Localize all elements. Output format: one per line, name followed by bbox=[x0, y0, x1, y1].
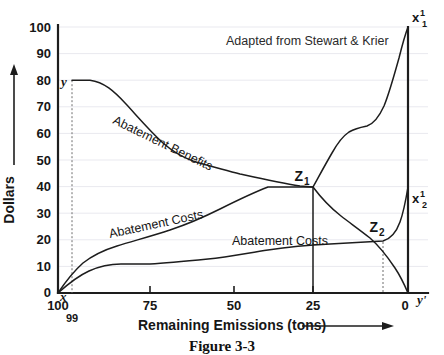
x-tick-99: 99 bbox=[66, 312, 78, 324]
y-tick-100: 100 bbox=[29, 20, 51, 35]
y-tick-20: 20 bbox=[37, 232, 51, 247]
annotation-z2-sub: 2 bbox=[379, 227, 385, 238]
curve-label-abatement-costs-flat: Abatement Costs bbox=[232, 234, 328, 248]
y-tick-80: 80 bbox=[37, 73, 51, 88]
annotation-z2: Z 2 bbox=[369, 219, 385, 238]
x-tick-50: 50 bbox=[227, 298, 241, 313]
annotation-z1: Z 1 bbox=[294, 168, 310, 187]
y-axis-arrow-head bbox=[10, 64, 18, 75]
annotation-x2-sub: 2 bbox=[422, 200, 427, 210]
figure-container: 100 90 80 70 60 50 40 30 20 10 0 Dollars bbox=[0, 0, 444, 355]
x-tick-0: 0 bbox=[401, 298, 408, 313]
y-tick-90: 90 bbox=[37, 46, 51, 61]
annotation-x1-sup: 1 bbox=[420, 8, 425, 18]
annotation-z1-base: Z bbox=[294, 168, 303, 184]
y-axis-tick-labels: 100 90 80 70 60 50 40 30 20 10 0 bbox=[29, 20, 51, 300]
annotation-x1-sub: 1 bbox=[422, 19, 427, 29]
figure-caption: Figure 3-3 bbox=[189, 338, 255, 354]
x-tick-25: 25 bbox=[306, 298, 320, 313]
curve-label-abatement-benefits: Abatement Benefits bbox=[111, 113, 215, 173]
x-axis-arrow-head bbox=[382, 322, 394, 330]
y-tick-30: 30 bbox=[37, 206, 51, 221]
y-tick-50: 50 bbox=[37, 153, 51, 168]
top-left-letter-y: y bbox=[59, 74, 67, 89]
corner-letters: x y y' bbox=[59, 74, 427, 307]
x-tick-75: 75 bbox=[143, 298, 157, 313]
y-axis-title: Dollars bbox=[1, 176, 17, 224]
bottom-right-letter-yprime: y' bbox=[415, 292, 427, 307]
x-axis-title-group: Remaining Emissions (tons) bbox=[138, 317, 394, 333]
annotation-x-prime-1: x 1 1 bbox=[412, 8, 427, 29]
annotation-z2-base: Z bbox=[369, 219, 378, 235]
x-axis-title: Remaining Emissions (tons) bbox=[138, 317, 326, 333]
annotation-x2-sup: 1 bbox=[420, 189, 425, 199]
annotation-x-prime-2: x 1 2 bbox=[412, 189, 427, 210]
annotation-z1-sub: 1 bbox=[304, 176, 310, 187]
y-axis-title-group: Dollars bbox=[1, 64, 18, 224]
annotation-x2-base: x bbox=[412, 191, 420, 206]
y-tick-70: 70 bbox=[37, 99, 51, 114]
chart-canvas: 100 90 80 70 60 50 40 30 20 10 0 Dollars bbox=[0, 0, 444, 355]
y-tick-10: 10 bbox=[37, 259, 51, 274]
chart-credit-text: Adapted from Stewart & Krier bbox=[226, 34, 389, 48]
y-tick-40: 40 bbox=[37, 179, 51, 194]
curve-label-abatement-costs-steep: Abatement Costs bbox=[108, 207, 205, 241]
annotation-x1-base: x bbox=[412, 10, 420, 25]
y-tick-60: 60 bbox=[37, 126, 51, 141]
